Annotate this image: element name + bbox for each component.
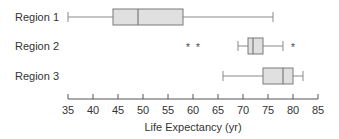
x-tick-label: 65 [212,104,224,116]
x-tick-label: 85 [312,104,324,116]
iqr-box [248,38,263,54]
x-tick-label: 35 [62,104,74,116]
x-axis-ticks: 3540455055606570758085 [62,94,324,116]
box-plot-2: *** [186,38,295,54]
box-plot-chart: Region 1Region 2Region 3 *** 35404550556… [0,0,339,139]
category-label: Region 1 [15,11,59,23]
x-tick-label: 70 [237,104,249,116]
outlier-marker: * [196,42,200,53]
iqr-box [113,9,183,25]
x-tick-label: 80 [287,104,299,116]
category-label: Region 2 [15,40,59,52]
box-plot-1 [68,9,273,25]
x-axis: 3540455055606570758085 Life Expectancy (… [62,94,324,133]
iqr-box [263,68,293,84]
category-label: Region 3 [15,70,59,82]
box-plot-3 [223,68,303,84]
x-tick-label: 40 [87,104,99,116]
x-tick-label: 55 [162,104,174,116]
x-axis-title: Life Expectancy (yr) [144,121,241,133]
box-plots: *** [68,9,303,84]
x-tick-label: 45 [112,104,124,116]
outlier-marker: * [291,42,295,53]
category-labels: Region 1Region 2Region 3 [15,11,59,82]
x-tick-label: 60 [187,104,199,116]
x-tick-label: 75 [262,104,274,116]
outlier-marker: * [186,42,190,53]
x-tick-label: 50 [137,104,149,116]
